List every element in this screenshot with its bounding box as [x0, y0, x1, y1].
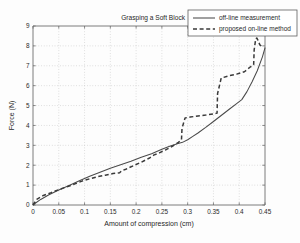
y-tick-label: 1 [26, 181, 30, 188]
x-tick-label: 0.15 [104, 208, 117, 215]
y-axis-title: Force (N) [8, 101, 16, 131]
data-series-layer [33, 38, 265, 205]
x-tick-label: 0.4 [235, 208, 244, 215]
x-tick-label: 0.3 [183, 208, 192, 215]
y-tick-label: 9 [26, 22, 30, 29]
x-tick-label: 0.2 [132, 208, 141, 215]
series-line-proposed-on-line-method [33, 38, 262, 205]
x-axis-title: Amount of compression (cm) [104, 220, 193, 228]
y-tick-label: 5 [26, 102, 30, 109]
y-axis-tick-labels: 0123456789 [26, 22, 30, 208]
y-tick-label: 8 [26, 42, 30, 49]
x-tick-label: 0.25 [156, 208, 169, 215]
axis-frame [33, 26, 265, 205]
y-tick-label: 7 [26, 62, 30, 69]
y-tick-label: 4 [26, 122, 30, 129]
legend-label-off-line-measurement: off-line measurement [219, 14, 280, 21]
y-tick-label: 6 [26, 82, 30, 89]
x-tick-label: 0.35 [207, 208, 220, 215]
x-axis-tick-labels: 00.050.10.150.20.250.30.350.40.45 [31, 208, 271, 215]
y-tick-label: 2 [26, 162, 30, 169]
force-compression-line-chart: 00.050.10.150.20.250.30.350.40.45 012345… [0, 0, 300, 243]
chart-figure: 00.050.10.150.20.250.30.350.40.45 012345… [0, 0, 300, 243]
tick-marks [33, 26, 265, 205]
y-tick-label: 3 [26, 142, 30, 149]
legend-label-proposed-on-line-method: proposed on-line method [219, 25, 291, 33]
x-tick-label: 0.05 [53, 208, 66, 215]
chart-title: Grasping a Soft Block [121, 14, 185, 22]
x-tick-label: 0.45 [259, 208, 272, 215]
chart-legend: off-line measurement proposed on-line me… [188, 10, 297, 36]
gridlines [33, 26, 265, 205]
x-tick-label: 0 [31, 208, 35, 215]
x-tick-label: 0.1 [80, 208, 89, 215]
y-tick-label: 0 [26, 201, 30, 208]
series-line-off-line-measurement [33, 48, 265, 205]
